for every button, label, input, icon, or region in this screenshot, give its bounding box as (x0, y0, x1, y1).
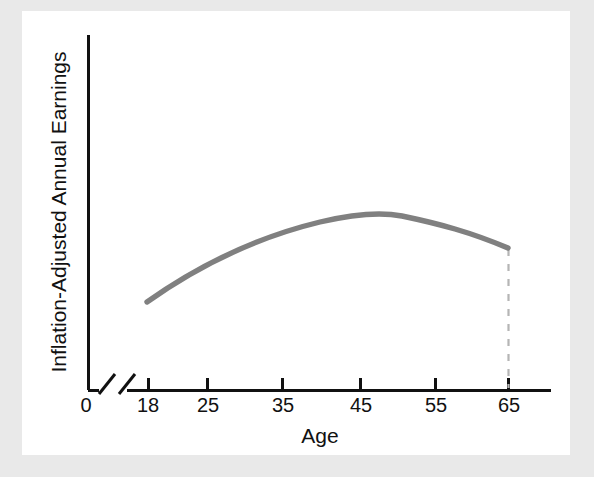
x-tick-label-65: 65 (498, 394, 520, 416)
x-axis-title: Age (301, 424, 338, 447)
x-tick-label-35: 35 (272, 394, 294, 416)
figure-root: 0 18 25 35 45 55 65 Age Inflation-Adjust… (0, 0, 594, 477)
x-tick-label-25: 25 (197, 394, 219, 416)
age-earnings-line-chart: 0 18 25 35 45 55 65 Age Inflation-Adjust… (0, 0, 594, 477)
earnings-curve (147, 214, 508, 302)
x-tick-label-0: 0 (80, 394, 91, 416)
x-tick-label-55: 55 (425, 394, 447, 416)
x-tick-label-45: 45 (350, 394, 372, 416)
axis-break-slash-1 (99, 374, 115, 394)
y-axis-title: Inflation-Adjusted Annual Earnings (47, 51, 70, 372)
x-tick-label-18: 18 (137, 394, 159, 416)
